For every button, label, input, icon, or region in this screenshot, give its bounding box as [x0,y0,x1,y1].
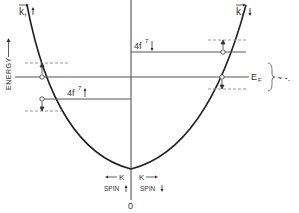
svg-text:k,: k, [236,6,244,17]
4f7-upper-label: 4f 7 [134,38,154,51]
crossing-point-left-4f [40,97,44,101]
svg-text:4f: 4f [67,88,75,98]
k-spin-up-label: k, [19,4,35,18]
energy-axis-label: ENERGY [5,38,12,90]
svg-text:F: F [258,77,262,83]
svg-text:K: K [119,173,125,182]
svg-text:SPIN: SPIN [140,185,155,192]
svg-text:E: E [251,72,257,82]
spin-down-label: SPIN [140,185,164,192]
svg-text:k,: k, [19,6,27,17]
crossing-point-left-fermi [40,75,44,79]
k-left-label: K [105,173,125,182]
fermi-level-label: E F [251,72,262,83]
svg-text:ENERGY: ENERGY [5,57,12,90]
band-diagram: ENERGY k, k, 4f 7 4f 7 E F ~ -. [0,0,299,213]
shift-arrow-left-down [40,102,44,111]
svg-text:7: 7 [78,85,82,91]
svg-text:7: 7 [145,38,149,44]
k-spin-down-label: k, [236,4,252,18]
shift-arrow-right-down [220,80,224,89]
spin-up-label: SPIN [104,185,128,192]
trailing-mark: ~ -. [277,73,290,83]
origin-label: 0 [128,201,133,211]
k-right-label: K [139,173,158,182]
svg-text:SPIN: SPIN [104,185,119,192]
shift-arrow-right-up [221,40,225,49]
crossing-point-right-fermi [220,75,224,79]
svg-text:K: K [139,173,145,182]
crossing-point-right-4f [221,50,225,54]
brace-icon [268,63,275,91]
band-parabola [27,5,246,169]
4f7-lower-label: 4f 7 [67,85,87,98]
svg-text:4f: 4f [134,41,142,51]
